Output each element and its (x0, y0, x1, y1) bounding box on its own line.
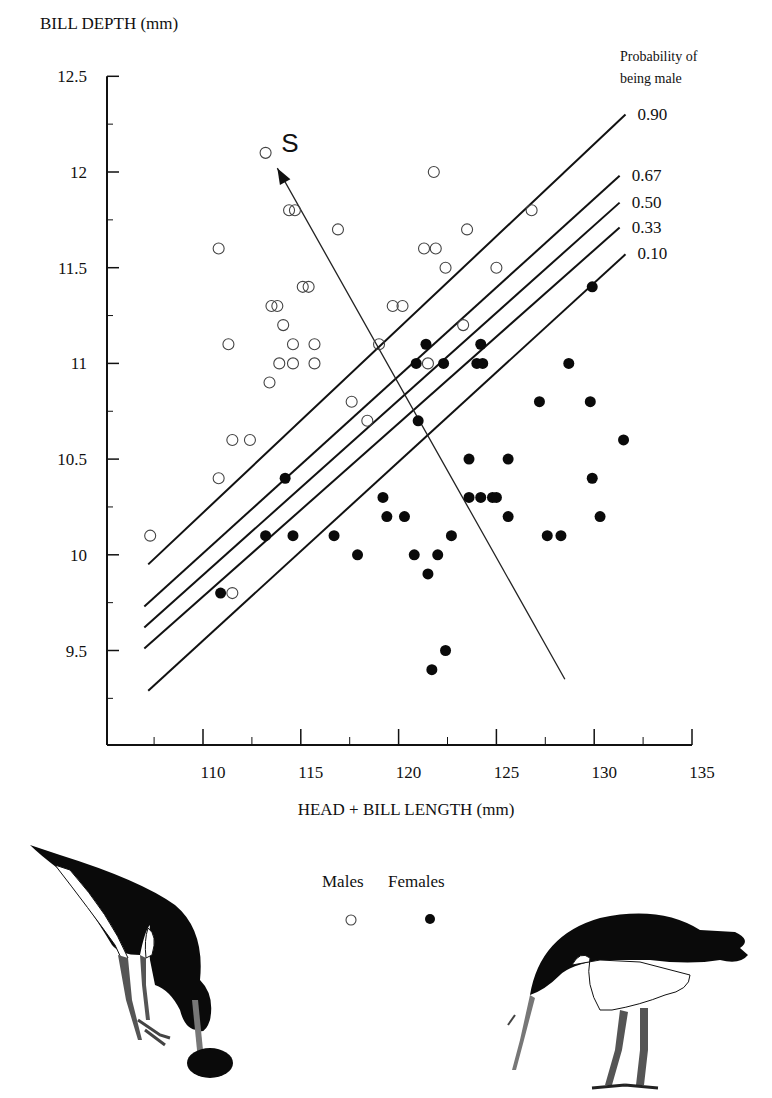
female-point (464, 454, 475, 465)
male-point (264, 377, 275, 388)
probability-line (144, 176, 619, 607)
female-point (411, 358, 422, 369)
female-point (352, 549, 363, 560)
scatter-chart: 9.51010.51111.51212.5110115120125130135 … (0, 0, 772, 1098)
male-point (278, 320, 289, 331)
female-point (399, 511, 410, 522)
female-point (563, 358, 574, 369)
arrow-head-icon (277, 168, 290, 185)
female-point (440, 645, 451, 656)
male-point (213, 473, 224, 484)
male-point (346, 396, 357, 407)
female-point (426, 664, 437, 675)
male-point (227, 434, 238, 445)
probability-line-label: 0.67 (632, 166, 662, 185)
bird-right-icon (508, 914, 748, 1088)
female-point (377, 492, 388, 503)
male-point (213, 243, 224, 254)
female-point (287, 530, 298, 541)
male-point (419, 243, 430, 254)
male-point (491, 262, 502, 273)
bird-left-icon (30, 845, 233, 1078)
male-point (287, 339, 298, 350)
female-point (280, 473, 291, 484)
male-point (422, 358, 433, 369)
female-point (260, 530, 271, 541)
female-point (446, 530, 457, 541)
male-point (260, 147, 271, 158)
male-point (145, 530, 156, 541)
probability-line (144, 228, 619, 649)
male-point (362, 415, 373, 426)
male-point (428, 167, 439, 178)
male-point (430, 243, 441, 254)
male-point (287, 358, 298, 369)
axes: 9.51010.51111.51212.5110115120125130135 (57, 67, 715, 782)
male-point (309, 358, 320, 369)
male-point (526, 205, 537, 216)
legend-male-marker-icon (346, 915, 356, 925)
y-tick-label: 10 (70, 546, 87, 565)
female-point (432, 549, 443, 560)
probability-line-label: 0.50 (632, 193, 662, 212)
legend-males-label: Males (322, 872, 364, 891)
female-point (475, 339, 486, 350)
female-point (542, 530, 553, 541)
male-point (332, 224, 343, 235)
female-point (409, 549, 420, 560)
male-point (309, 339, 320, 350)
female-point (587, 473, 598, 484)
x-tick-label: 130 (591, 763, 617, 782)
female-point (587, 281, 598, 292)
female-point (413, 415, 424, 426)
legend-female-marker-icon (425, 914, 435, 924)
male-point (274, 358, 285, 369)
female-point (420, 339, 431, 350)
male-point (458, 320, 469, 331)
male-point (223, 339, 234, 350)
female-point (595, 511, 606, 522)
female-point (503, 511, 514, 522)
x-tick-label: 135 (689, 763, 715, 782)
female-point (422, 568, 433, 579)
x-tick-label: 110 (201, 763, 226, 782)
y-tick-label: 11.5 (58, 259, 87, 278)
female-point (438, 358, 449, 369)
x-tick-label: 120 (396, 763, 422, 782)
probability-line-label: 0.33 (632, 218, 662, 237)
probability-line (144, 203, 619, 628)
probability-line-label: 0.10 (637, 244, 667, 263)
female-point (329, 530, 340, 541)
legend: MalesFemales (322, 872, 445, 925)
arrow-label: S (281, 128, 298, 158)
female-point (381, 511, 392, 522)
female-point (475, 492, 486, 503)
y-tick-label: 9.5 (66, 642, 87, 661)
female-point (555, 530, 566, 541)
y-tick-label: 10.5 (57, 450, 87, 469)
female-point (477, 358, 488, 369)
female-point (534, 396, 545, 407)
legend-females-label: Females (388, 872, 445, 891)
female-point (464, 492, 475, 503)
female-point (585, 396, 596, 407)
male-point (244, 434, 255, 445)
x-tick-label: 115 (298, 763, 323, 782)
y-tick-label: 12 (70, 163, 87, 182)
male-point (227, 588, 238, 599)
female-point (503, 454, 514, 465)
x-tick-label: 125 (494, 763, 520, 782)
probability-line-label: 0.90 (637, 105, 667, 124)
female-point (215, 588, 226, 599)
female-point (491, 492, 502, 503)
y-tick-label: 12.5 (57, 67, 87, 86)
male-point (440, 262, 451, 273)
female-point (618, 434, 629, 445)
male-point (462, 224, 473, 235)
y-tick-label: 11 (71, 354, 87, 373)
